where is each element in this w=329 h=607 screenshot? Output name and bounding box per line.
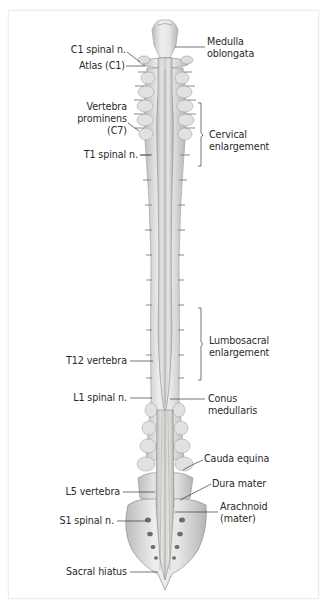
label-s1-spinal-nerve: S1 spinal n. xyxy=(59,515,114,527)
label-arachnoid-line1: Arachnoid xyxy=(220,501,268,513)
label-cervical-enlargement-line1: Cervical xyxy=(209,129,247,141)
label-vertebra-prominens-line1: Vertebra xyxy=(87,101,127,113)
label-conus-medullaris-line2: medullaris xyxy=(208,405,257,417)
label-vertebra-prominens-line2: prominens xyxy=(77,113,127,125)
label-t1-spinal-nerve: T1 spinal n. xyxy=(84,149,138,161)
label-l5-vertebra: L5 vertebra xyxy=(66,486,121,498)
label-conus-medullaris-line1: Conus xyxy=(208,393,237,405)
label-atlas: Atlas (C1) xyxy=(79,60,125,72)
label-sacral-hiatus: Sacral hiatus xyxy=(66,566,127,578)
label-arachnoid-line2: (mater) xyxy=(220,513,256,525)
label-medulla-line2: oblongata xyxy=(207,48,254,60)
label-t12-vertebra: T12 vertebra xyxy=(66,355,127,367)
label-vertebra-prominens-line3: (C7) xyxy=(107,125,127,137)
label-cauda-equina: Cauda equina xyxy=(204,453,269,465)
spinal-cord-illustration xyxy=(0,0,329,607)
label-lumbosacral-enlargement-line2: enlargement xyxy=(209,347,269,359)
label-dura-mater: Dura mater xyxy=(212,478,266,490)
label-medulla-line1: Medulla xyxy=(207,36,244,48)
label-l1-spinal-nerve: L1 spinal n. xyxy=(73,392,127,404)
label-lumbosacral-enlargement-line1: Lumbosacral xyxy=(209,335,269,347)
label-cervical-enlargement-line2: enlargement xyxy=(209,141,269,153)
medulla-oblongata-shape xyxy=(152,20,178,58)
label-c1-spinal-nerve: C1 spinal n. xyxy=(71,44,126,56)
